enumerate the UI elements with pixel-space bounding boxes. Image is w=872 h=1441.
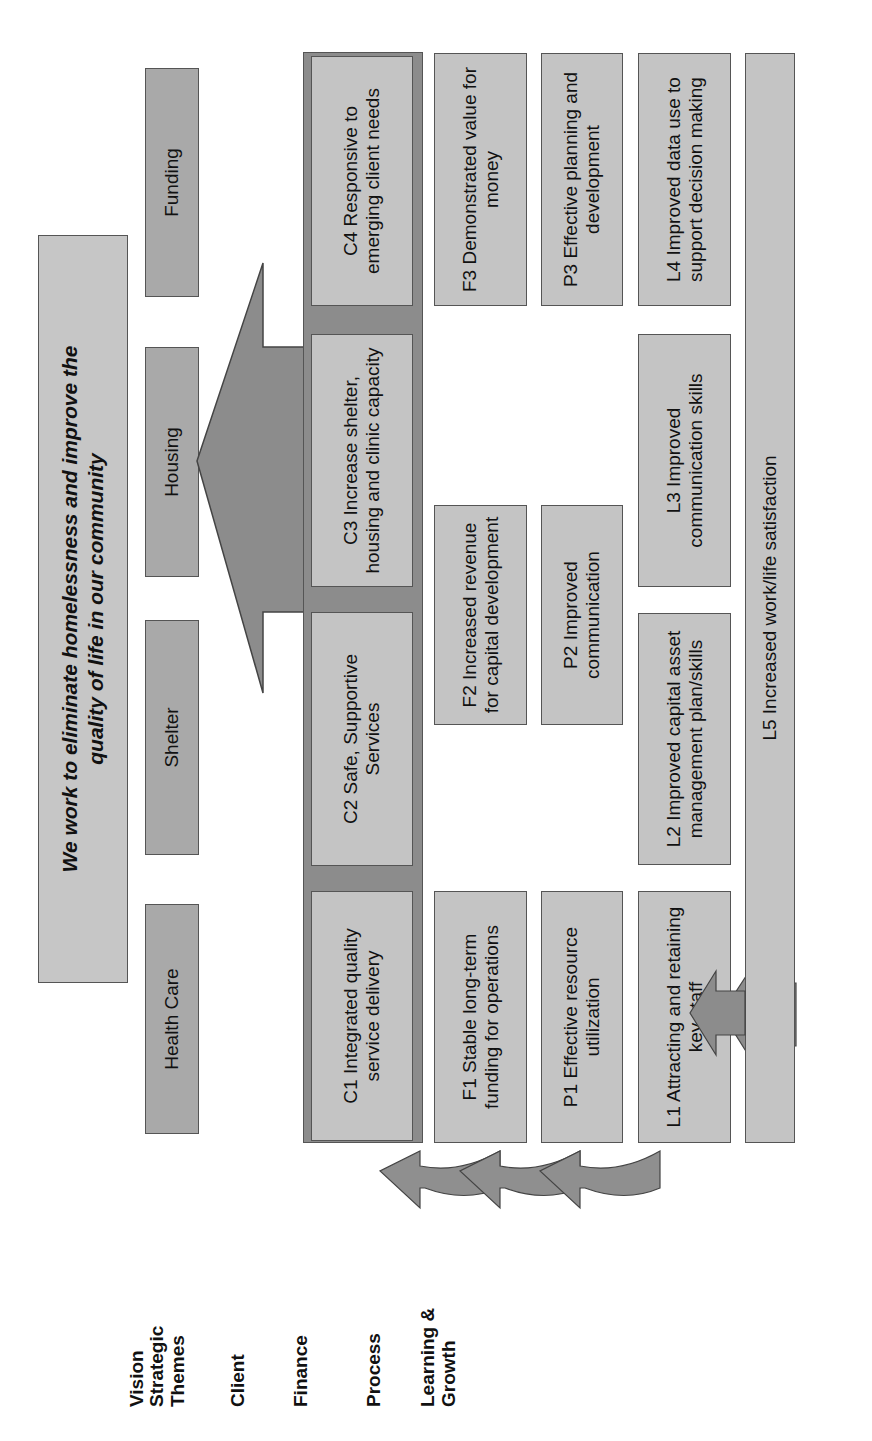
strategy-map: Vision Strategic Themes Client Finance P… (0, 0, 872, 1441)
l5-to-l1-arrow-icon (690, 971, 745, 1055)
l5-arrow-overlay (0, 0, 872, 1441)
